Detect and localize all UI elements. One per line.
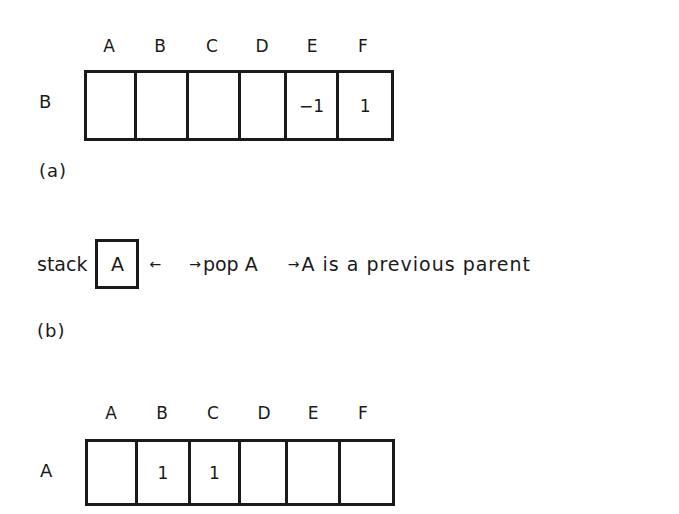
array-cell: 1: [191, 442, 241, 503]
array-cell: −1: [287, 73, 339, 138]
stack-box: A: [95, 239, 139, 289]
right-arrow-icon: →: [288, 256, 300, 272]
column-header-e: E: [292, 36, 332, 56]
column-header-f: F: [343, 403, 383, 423]
column-header-d: D: [242, 36, 282, 56]
stack-prefix: stack: [37, 253, 87, 275]
array-cell: [241, 73, 287, 138]
column-header-e: E: [293, 403, 333, 423]
array-row-a: 1 1: [85, 439, 395, 506]
column-header-a: A: [89, 36, 129, 56]
caption-b: (b): [37, 320, 65, 341]
row-label: B: [39, 91, 51, 112]
row-label: A: [40, 460, 52, 481]
array-cell: [341, 442, 392, 503]
array-row-b: −1 1: [84, 70, 394, 141]
stack-line: stack A ← → pop A → A is a previous pare…: [37, 237, 531, 290]
array-cell: [88, 442, 138, 503]
column-header-b: B: [140, 36, 180, 56]
caption-a: (a): [39, 160, 67, 181]
column-header-c: C: [192, 36, 232, 56]
array-cell: 1: [138, 442, 191, 503]
column-header-d: D: [244, 403, 284, 423]
pop-step-text: pop A: [203, 253, 258, 275]
column-header-a: A: [91, 403, 131, 423]
array-cell: 1: [339, 73, 391, 138]
right-arrow-icon: →: [189, 256, 201, 272]
parent-step-text: A is a previous parent: [301, 253, 531, 275]
column-header-f: F: [343, 36, 383, 56]
array-cell: [87, 73, 137, 138]
array-cell: [137, 73, 189, 138]
array-cell: [241, 442, 288, 503]
left-arrow-icon: ←: [149, 256, 161, 272]
column-header-b: B: [142, 403, 182, 423]
column-header-c: C: [193, 403, 233, 423]
array-cell: [288, 442, 341, 503]
array-cell: [189, 73, 241, 138]
